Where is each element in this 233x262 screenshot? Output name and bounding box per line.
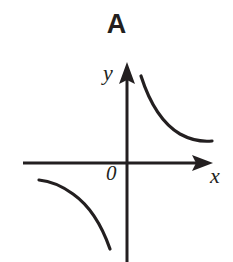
x-axis-label: x xyxy=(210,165,220,187)
origin-label: 0 xyxy=(106,163,117,184)
hyperbola-graph xyxy=(0,0,233,262)
y-axis-label: y xyxy=(103,62,113,84)
hyperbola-branch-quadrant-1 xyxy=(141,76,212,141)
figure-panel: A y x 0 xyxy=(0,0,233,262)
hyperbola-branch-quadrant-3 xyxy=(39,180,110,249)
